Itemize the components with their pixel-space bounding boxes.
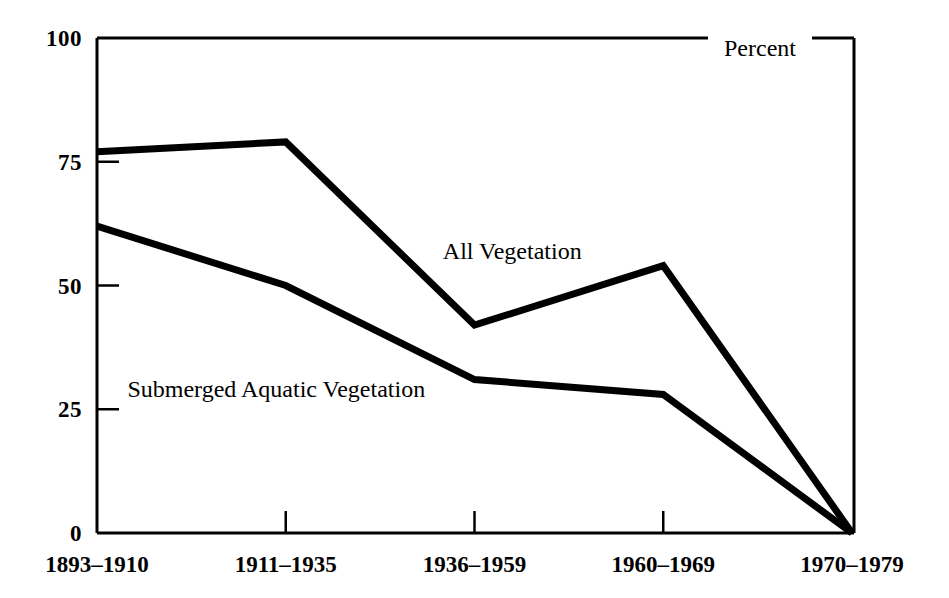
y-tick-label: 100 [10, 27, 82, 50]
chart-plot-area [0, 0, 949, 598]
percent-unit-label: Percent [724, 36, 796, 60]
x-tick-label: 1960–1969 [612, 553, 716, 576]
y-tick-label: 25 [10, 398, 82, 421]
series-label: Submerged Aquatic Vegetation [127, 377, 425, 401]
x-tick-label: 1936–1959 [423, 553, 527, 576]
y-tick-label: 0 [10, 522, 82, 545]
x-tick-label: 1893–1910 [45, 553, 149, 576]
series-line [97, 142, 852, 533]
chart-axes [97, 38, 854, 533]
x-tick-label: 1970–1979 [800, 553, 904, 576]
series-label: All Vegetation [443, 239, 582, 263]
chart-figure: 0255075100 1893–19101911–19351936–195919… [0, 0, 949, 598]
y-tick-label: 50 [10, 274, 82, 297]
y-tick-label: 75 [10, 150, 82, 173]
x-axis-ticks [286, 511, 664, 533]
y-axis-ticks [97, 162, 119, 410]
x-tick-label: 1911–1935 [235, 553, 337, 576]
chart-series-group [97, 142, 852, 533]
